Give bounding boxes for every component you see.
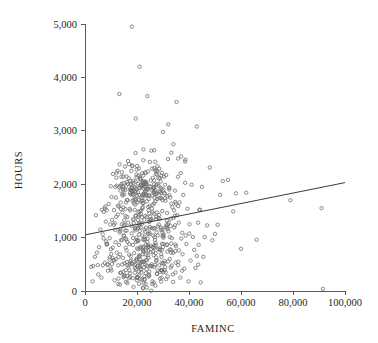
x-tick-label: 40,000 <box>175 297 204 308</box>
scatter-chart-figure: 01,0002,0003,0004,0005,000 020,00040,000… <box>0 0 378 343</box>
y-tick-label: 0 <box>72 286 77 297</box>
x-tick-label: 20,000 <box>123 297 152 308</box>
plot-canvas: 01,0002,0003,0004,0005,000 020,00040,000… <box>0 0 378 343</box>
x-tick-label: 60,000 <box>227 297 256 308</box>
y-tick-label: 2,000 <box>53 179 77 190</box>
y-tick-label: 5,000 <box>53 19 77 30</box>
y-tick-label: 4,000 <box>53 72 77 83</box>
y-axis-title: HOURS <box>13 151 24 190</box>
x-tick-label: 0 <box>82 297 87 308</box>
x-axis-title: FAMINC <box>191 323 235 334</box>
x-tick-label: 80,000 <box>279 297 308 308</box>
y-tick-label: 1,000 <box>53 232 77 243</box>
y-tick-label: 3,000 <box>53 125 77 136</box>
x-tick-label: 100,000 <box>328 297 362 308</box>
